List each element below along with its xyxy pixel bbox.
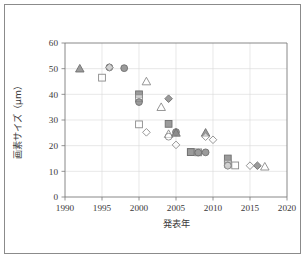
x-tick-label: 2010 <box>204 203 223 213</box>
scatter-chart: 1990199520002005201020152020 01020304050… <box>5 5 302 255</box>
data-point-circle-filled <box>136 99 143 106</box>
chart-svg: 1990199520002005201020152020 01020304050… <box>5 5 302 255</box>
data-point-triangle-open <box>261 162 270 170</box>
x-axis-tick-labels: 1990199520002005201020152020 <box>56 203 297 213</box>
y-tick-label: 40 <box>49 90 59 100</box>
data-point-square-filled <box>187 149 194 156</box>
y-tick-label: 30 <box>49 115 59 125</box>
axis-ticks-layer <box>62 43 288 201</box>
x-tick-label: 2000 <box>130 203 149 213</box>
data-point-circle-filled <box>121 65 128 72</box>
data-point-diamond-filled <box>254 162 262 170</box>
y-tick-label: 10 <box>49 167 59 177</box>
data-point-square-open <box>99 74 106 81</box>
data-point-square-open <box>232 162 239 169</box>
data-point-circle-filled <box>202 149 209 156</box>
y-tick-label: 0 <box>53 192 58 202</box>
data-point-diamond-open <box>143 129 151 137</box>
y-axis-title: 画素サイズ（μm） <box>12 81 23 159</box>
data-point-circle-open <box>224 162 231 169</box>
x-axis-title: 発表年 <box>163 218 190 229</box>
data-points-layer <box>76 64 269 170</box>
x-tick-label: 2020 <box>278 203 297 213</box>
x-tick-label: 1995 <box>93 203 112 213</box>
y-tick-label: 60 <box>49 38 59 48</box>
x-tick-label: 2005 <box>167 203 186 213</box>
data-point-triangle-filled <box>76 64 85 72</box>
data-point-diamond-open <box>209 136 217 144</box>
figure-frame: 1990199520002005201020152020 01020304050… <box>4 4 301 254</box>
grid-layer <box>65 43 287 197</box>
y-axis-tick-labels: 0102030405060 <box>49 38 59 202</box>
data-point-square-filled <box>165 120 172 127</box>
data-point-diamond-filled <box>165 95 173 103</box>
data-point-circle-filled <box>195 149 202 156</box>
data-point-diamond-open <box>246 162 254 170</box>
y-tick-label: 20 <box>49 141 59 151</box>
data-point-circle-open <box>165 133 172 140</box>
data-point-triangle-open <box>157 103 166 111</box>
x-tick-label: 1990 <box>56 203 75 213</box>
data-point-diamond-open <box>172 141 180 149</box>
x-tick-label: 2015 <box>241 203 260 213</box>
y-tick-label: 50 <box>49 64 59 74</box>
data-point-triangle-open <box>142 77 151 85</box>
data-point-square-open <box>136 121 143 128</box>
